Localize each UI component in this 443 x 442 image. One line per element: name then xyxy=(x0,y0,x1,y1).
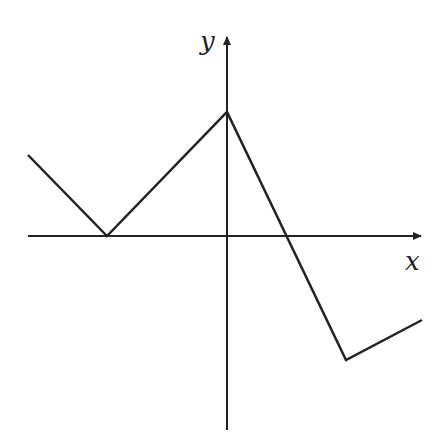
x-axis-label: x xyxy=(405,246,420,276)
y-axis-label: y xyxy=(199,26,215,56)
graph-diagram: y x xyxy=(0,0,443,442)
